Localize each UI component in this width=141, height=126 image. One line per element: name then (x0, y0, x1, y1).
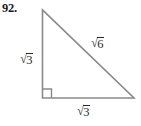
radical-expression: √3 (20, 52, 33, 66)
right-triangle-figure: 92. √3 √6 √3 (0, 0, 141, 126)
radical-expression: √6 (91, 36, 104, 50)
radicand-value: 3 (83, 105, 90, 119)
right-angle-marker-icon (43, 89, 52, 98)
radical-expression: √3 (77, 104, 90, 118)
left-leg-label: √3 (20, 52, 33, 66)
bottom-leg-label: √3 (77, 104, 90, 118)
triangle-outline (43, 10, 135, 98)
hypotenuse-label: √6 (91, 36, 104, 50)
radicand-value: 3 (26, 53, 33, 67)
radicand-value: 6 (97, 37, 104, 51)
